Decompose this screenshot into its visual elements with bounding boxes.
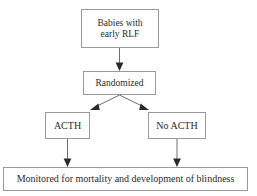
node-randomized: Randomized [83,71,156,95]
node-monitored-outcome: Monitored for mortality and development … [3,167,248,191]
node-babies-label: Babies with early RLF [97,18,142,40]
node-no-acth: No ACTH [148,112,206,139]
node-acth: ACTH [45,112,90,139]
node-babies-with-early-rlf: Babies with early RLF [81,9,159,48]
node-babies-label-line2: early RLF [101,29,140,39]
node-randomized-label: Randomized [95,78,143,89]
node-no-acth-label: No ACTH [156,120,197,132]
edge-no-acth-to-monitored [173,139,181,167]
node-acth-label: ACTH [54,120,81,132]
flowchart-diagram: Babies with early RLF Randomized ACTH No… [0,0,257,196]
edge-acth-to-monitored [64,139,72,167]
edge-randomized-to-no-acth [120,95,150,110]
node-babies-label-line1: Babies with [97,18,142,28]
edge-babies-to-randomized [116,48,124,71]
node-monitored-label: Monitored for mortality and development … [17,173,235,185]
edge-randomized-to-acth [90,95,120,110]
